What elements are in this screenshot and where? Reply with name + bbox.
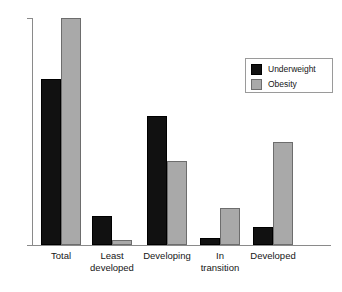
bar-obesity-total (61, 18, 81, 245)
bar-obesity-developed (273, 142, 293, 245)
bar-obesity-in-transition (220, 208, 240, 245)
x-tick-label-developed: Developed (236, 250, 310, 262)
legend-label-obesity: Obesity (268, 79, 297, 89)
bar-underweight-total (41, 79, 61, 245)
bar-underweight-developing (147, 116, 167, 245)
bar-obesity-developing (167, 161, 187, 245)
bars-layer (0, 0, 342, 292)
bar-underweight-in-transition (200, 238, 220, 245)
bar-underweight-developed (253, 227, 273, 245)
legend-item-obesity: Obesity (251, 78, 327, 90)
underweight-swatch-icon (251, 64, 262, 75)
bar-chart: Underweight Obesity TotalLeast developed… (0, 0, 342, 292)
bar-obesity-least-developed (112, 240, 132, 245)
bar-underweight-least-developed (92, 216, 112, 245)
obesity-swatch-icon (251, 79, 262, 90)
legend-item-underweight: Underweight (251, 63, 327, 75)
chart-legend: Underweight Obesity (245, 58, 333, 93)
legend-label-underweight: Underweight (268, 64, 316, 74)
